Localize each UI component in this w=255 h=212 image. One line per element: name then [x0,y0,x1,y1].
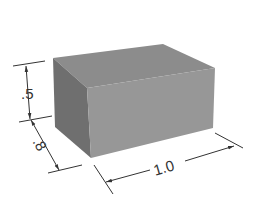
extension-line-mid [19,116,52,122]
height-label: .5 [21,85,34,102]
width-dimension-line-right [185,146,234,161]
box-diagram: .5 .8 1.0 [0,0,255,212]
extension-line-left [94,165,113,194]
width-label: 1.0 [151,156,176,178]
extension-line-top [13,61,45,66]
width-dimension-line-left [106,170,150,182]
extension-line-bottom [48,165,82,173]
depth-label: .8 [30,134,51,153]
extension-line-right [215,133,243,148]
box [53,44,215,158]
